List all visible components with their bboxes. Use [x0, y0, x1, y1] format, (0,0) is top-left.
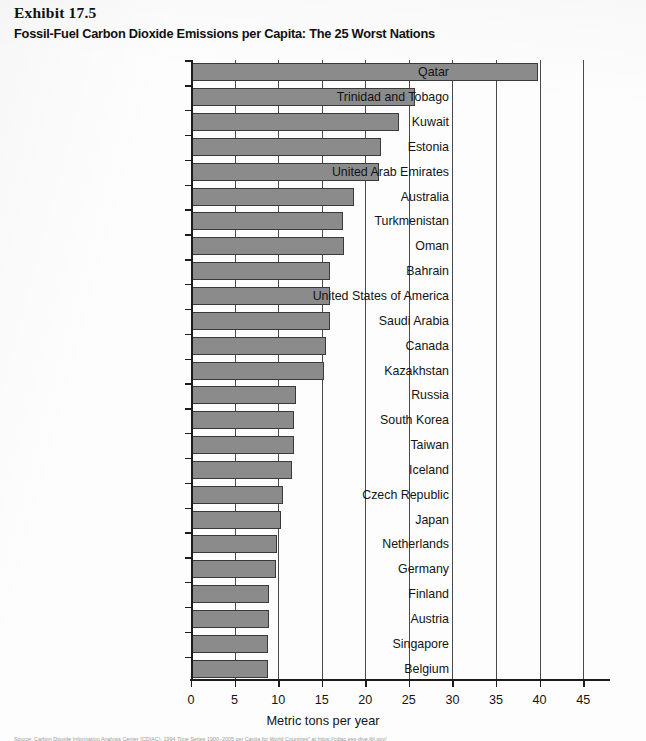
bar — [191, 411, 294, 429]
y-axis-label-iceland: Iceland — [409, 464, 449, 476]
bar — [191, 560, 276, 578]
x-axis-tick-30 — [452, 681, 453, 687]
y-axis-label-netherlands: Netherlands — [382, 538, 449, 550]
y-axis-label-canada: Canada — [406, 340, 449, 352]
x-tick-label-5: 5 — [215, 693, 255, 707]
bar — [191, 212, 343, 230]
y-axis-label-bahrain: Bahrain — [406, 265, 449, 277]
y-axis-label-russia: Russia — [411, 389, 449, 401]
bar — [191, 386, 296, 404]
x-axis-tick-20 — [365, 681, 366, 687]
bar — [191, 237, 344, 255]
y-axis-label-austria: Austria — [410, 613, 449, 625]
chart-title: Fossil-Fuel Carbon Dioxide Emissions per… — [14, 26, 435, 41]
gridline-35 — [496, 60, 497, 681]
bar — [191, 610, 269, 628]
y-axis-label-australia: Australia — [401, 191, 449, 203]
x-tick-label-40: 40 — [520, 693, 560, 707]
x-axis-tick-15 — [322, 681, 323, 687]
x-axis-tick-35 — [496, 681, 497, 687]
y-axis-label-qatar: Qatar — [418, 66, 449, 78]
x-tick-label-25: 25 — [389, 693, 429, 707]
x-tick-label-10: 10 — [258, 693, 298, 707]
y-axis-label-singapore: Singapore — [393, 638, 450, 650]
bar — [191, 511, 281, 529]
y-axis-label-germany: Germany — [398, 563, 449, 575]
x-tick-label-30: 30 — [432, 693, 472, 707]
exhibit-label: Exhibit 17.5 — [14, 4, 97, 22]
y-axis-line — [191, 60, 193, 681]
bar — [191, 585, 269, 603]
bar — [191, 113, 399, 131]
bar — [191, 337, 326, 355]
y-axis-label-belgium: Belgium — [404, 663, 449, 675]
bar — [191, 262, 330, 280]
x-axis-line — [190, 679, 610, 681]
bar — [191, 287, 330, 305]
gridline-30 — [452, 60, 453, 681]
bar — [191, 138, 381, 156]
y-axis-label-oman: Oman — [415, 240, 449, 252]
y-axis-label-south-korea: South Korea — [380, 414, 449, 426]
x-tick-label-45: 45 — [563, 693, 603, 707]
y-axis-label-trinidad-and-tobago: Trinidad and Tobago — [337, 91, 449, 103]
bar — [191, 535, 277, 553]
y-axis-label-taiwan: Taiwan — [410, 439, 449, 451]
x-axis-tick-0 — [191, 681, 192, 687]
x-tick-label-15: 15 — [302, 693, 342, 707]
bar — [191, 486, 283, 504]
source-note: Source: Carbon Dioxide Information Analy… — [14, 736, 634, 741]
x-axis-tick-5 — [235, 681, 236, 687]
x-axis-tick-25 — [409, 681, 410, 687]
y-axis-label-turkmenistan: Turkmenistan — [374, 215, 449, 227]
x-axis-tick-45 — [583, 681, 584, 687]
x-tick-label-35: 35 — [476, 693, 516, 707]
bar — [191, 635, 268, 653]
x-axis-tick-40 — [540, 681, 541, 687]
y-axis-label-kuwait: Kuwait — [412, 116, 449, 128]
bar — [191, 660, 268, 678]
bar — [191, 312, 330, 330]
x-tick-label-0: 0 — [171, 693, 211, 707]
bar — [191, 436, 294, 454]
gridline-45 — [583, 60, 584, 681]
bar — [191, 63, 538, 81]
x-axis-tick-10 — [278, 681, 279, 687]
y-axis-label-estonia: Estonia — [408, 141, 449, 153]
x-axis-title: Metric tons per year — [0, 713, 646, 728]
x-tick-label-20: 20 — [345, 693, 385, 707]
y-axis-label-kazakhstan: Kazakhstan — [384, 365, 449, 377]
y-axis-label-japan: Japan — [415, 514, 449, 526]
y-axis-label-finland: Finland — [408, 588, 449, 600]
bar — [191, 461, 292, 479]
y-axis-label-saudi-arabia: Saudi Arabia — [379, 315, 449, 327]
y-axis-label-united-arab-emirates: United Arab Emirates — [332, 166, 449, 178]
bar — [191, 188, 354, 206]
gridline-40 — [540, 60, 541, 681]
y-axis-label-united-states-of-america: United States of America — [313, 290, 449, 302]
bar — [191, 362, 324, 380]
y-axis-label-czech-republic: Czech Republic — [362, 489, 449, 501]
